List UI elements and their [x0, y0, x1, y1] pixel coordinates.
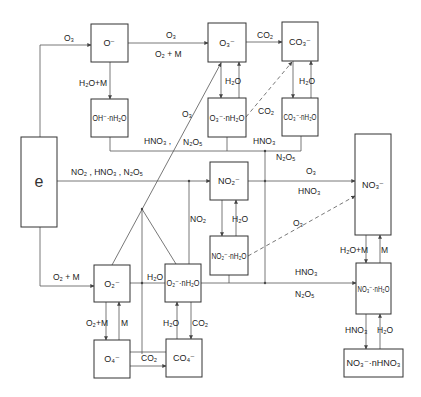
node-e: e	[21, 137, 57, 227]
edge-label-o-o3-top: O₃	[166, 30, 176, 40]
edge-label-o3-hyd: H₂O	[225, 76, 241, 86]
edge-label-o-oh: H₂O+M	[79, 78, 107, 88]
node-label: CO₃⁻·nH₂O	[284, 112, 317, 122]
node-label: NO₃⁻·nHNO₃	[347, 358, 401, 368]
edge-label-no2-hyd: H₂O	[232, 214, 248, 224]
node-label: O₂⁻	[104, 279, 120, 289]
node-label: CO₃⁻	[289, 37, 311, 47]
node-label: OH⁻·nH₂O	[93, 113, 127, 123]
node-o3-nh2o: O₃⁻·nH₂O	[208, 98, 246, 137]
edge-O2-minus-to-O3-minus	[112, 63, 221, 265]
edge-label-to-no3nh2o-bottom: N₂O₅	[295, 289, 314, 299]
node-label: NO₂⁻	[218, 176, 240, 186]
edge-label-o2-hyd: H₂O	[147, 272, 163, 282]
node-label: O⁻	[103, 38, 115, 48]
edge-label-no2-no3-top: O₃	[306, 166, 316, 176]
edge-label-o2-o4-right: M	[121, 318, 128, 328]
edge-label-no3-hyd-right: M	[381, 245, 388, 255]
edge-label-o2-o4-left: O₂+M	[86, 318, 108, 328]
edge-label-o3-co3-: CO₂	[257, 30, 273, 40]
edge-label-e-no2-: NO₂ , HNO₃ , N₂O₅	[71, 167, 143, 177]
edge-label-e-o2-: O₂ + M	[53, 272, 80, 282]
edge-label-o-o3-bottom: O₂ + M	[155, 49, 182, 59]
node-o-: O⁻	[91, 24, 128, 62]
edge-label-to-no3nh2o-top: HNO₃	[295, 267, 317, 277]
node-o3-: O₃⁻	[208, 23, 246, 62]
node-label: CO₄⁻	[173, 353, 195, 363]
edge-label-o4-co4: CO₂	[141, 353, 157, 363]
edge-label-no3-hyd-left: H₂O+M	[340, 245, 368, 255]
edge-label-n2o5-left: N₂O₅	[183, 137, 202, 147]
edge-label-no2-no3-bottom: HNO₃	[298, 186, 320, 196]
edge-label-o3nh2o-co3: CO₂	[258, 106, 274, 116]
node-o2-: O₂⁻	[94, 265, 130, 302]
node-label: O₄⁻	[104, 354, 120, 364]
edge-label-e-o-: O₃	[64, 33, 74, 43]
node-no3-nhno3: NO₃⁻·nHNO₃	[344, 349, 403, 377]
edge-label-co3-hyd: H₂O	[299, 76, 315, 86]
edge-label-no3nh2o-nhno3-left: HNO₃	[345, 325, 367, 335]
edge-label-hno3-n2o5-left: HNO₃ ,	[144, 136, 171, 146]
node-oh-nh2o: OH⁻·nH₂O	[91, 99, 128, 137]
edge-label-dash-o3: O₃	[293, 218, 303, 228]
node-label: NO₂⁻·nH₂O	[212, 251, 247, 261]
node-label: O₃⁻	[219, 38, 235, 48]
edge-label-o2nh2o-co4-right: CO₂	[192, 318, 208, 328]
edge-vertex-to-O2-hydrate	[142, 209, 176, 264]
node-label: O₂⁻·nH₂O	[167, 278, 200, 288]
node-co4-: CO₄⁻	[166, 339, 202, 377]
node-no2-nh2o: NO₂⁻·nH₂O	[210, 236, 248, 275]
edge-label-hno3-right: HNO₃	[253, 136, 275, 146]
reaction-diagram: eO⁻OH⁻·nH₂OO₃⁻CO₃⁻O₃⁻·nH₂OCO₃⁻·nH₂ONO₂⁻N…	[0, 0, 421, 397]
node-label: NO₃⁻	[362, 180, 384, 190]
node-co3-: CO₃⁻	[282, 22, 318, 61]
node-no3-nh2o: NO₃⁻·nH₂O	[356, 263, 391, 314]
node-no3-: NO₃⁻	[355, 134, 391, 235]
edge-e-to-O-minus	[40, 45, 91, 137]
edge-label-n2o5-right: N₂O₅	[276, 152, 295, 162]
node-o2-nh2o: O₂⁻·nH₂O	[165, 264, 201, 302]
edge-label-o2nh2o-co4-left: H₂O	[163, 318, 179, 328]
edge-label-no2-vertical: NO₂	[190, 214, 206, 224]
edge-label-diag-o3: O₃	[182, 109, 192, 119]
node-o4-: O₄⁻	[94, 340, 130, 378]
node-label: O₃⁻·nH₂O	[210, 113, 245, 123]
node-label: NO₃⁻·nH₂O	[358, 284, 390, 294]
edge-label-no3nh2o-nhno3-right: H₂O	[377, 325, 393, 335]
node-co3-nh2o: CO₃⁻·nH₂O	[282, 98, 318, 136]
node-no2-: NO₂⁻	[210, 162, 248, 200]
node-label: e	[35, 173, 44, 190]
